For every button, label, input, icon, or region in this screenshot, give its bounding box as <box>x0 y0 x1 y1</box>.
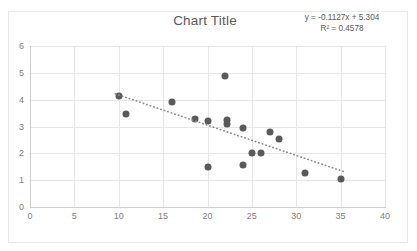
gridline-vertical <box>163 46 164 207</box>
scatter-point[interactable] <box>192 115 199 122</box>
x-axis-tick-label: 35 <box>326 211 356 221</box>
gridline-vertical <box>119 46 120 207</box>
x-axis-line <box>30 207 386 208</box>
x-axis-tick-label: 40 <box>370 211 400 221</box>
scatter-point[interactable] <box>248 150 255 157</box>
scatter-point[interactable] <box>240 162 247 169</box>
gridline-vertical <box>296 46 297 207</box>
y-axis-tick-label: 1 <box>0 175 24 185</box>
scatter-point[interactable] <box>222 73 229 80</box>
scatter-point[interactable] <box>224 121 231 128</box>
gridline-vertical <box>385 46 386 207</box>
x-axis-tick-label: 10 <box>104 211 134 221</box>
plot-area[interactable] <box>30 46 385 207</box>
gridline-vertical <box>252 46 253 207</box>
x-axis-tick-label: 25 <box>237 211 267 221</box>
y-axis-tick-label: 4 <box>0 95 24 105</box>
x-axis-tick-label: 0 <box>15 211 45 221</box>
scatter-point[interactable] <box>266 129 273 136</box>
x-axis-tick-label: 30 <box>281 211 311 221</box>
gridline-vertical <box>208 46 209 207</box>
y-axis-tick-label: 6 <box>0 41 24 51</box>
scatter-point[interactable] <box>204 164 211 171</box>
y-axis-line <box>30 46 31 208</box>
gridline-vertical <box>74 46 75 207</box>
scatter-point[interactable] <box>122 111 129 118</box>
x-axis-tick-label: 20 <box>193 211 223 221</box>
y-axis-tick-label: 3 <box>0 122 24 132</box>
plot-container: 0123456 0510152025303540 <box>0 0 417 251</box>
scatter-point[interactable] <box>337 176 344 183</box>
scatter-point[interactable] <box>169 98 176 105</box>
y-axis-tick-label: 5 <box>0 68 24 78</box>
scatter-point[interactable] <box>240 125 247 132</box>
scatter-point[interactable] <box>275 136 282 143</box>
scatter-point[interactable] <box>302 169 309 176</box>
x-axis-tick-label: 5 <box>59 211 89 221</box>
scatter-point[interactable] <box>115 92 122 99</box>
scatter-point[interactable] <box>257 149 264 156</box>
scatter-point[interactable] <box>204 117 211 124</box>
y-axis-tick-label: 2 <box>0 148 24 158</box>
x-axis-tick-label: 15 <box>148 211 178 221</box>
